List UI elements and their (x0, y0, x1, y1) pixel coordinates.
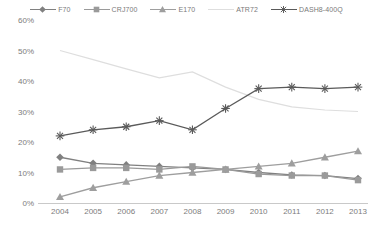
y-axis-tick-label: 60% (18, 16, 34, 25)
data-point-marker (287, 83, 296, 92)
y-axis-tick-label: 30% (18, 107, 34, 116)
series-line (60, 87, 358, 136)
legend-item-atr72[interactable]: ATR72 (208, 5, 258, 14)
data-point-marker (122, 122, 131, 131)
data-point-marker (321, 84, 330, 93)
x-axis-labels: 2004200520062007200820092010201120122013 (38, 205, 368, 221)
series-line (60, 51, 358, 112)
x-axis-tick-label: 2006 (117, 207, 135, 216)
data-point-marker (123, 165, 129, 171)
y-axis-tick-label: 10% (18, 168, 34, 177)
x-axis-tick-label: 2009 (217, 207, 235, 216)
data-point-marker (255, 171, 261, 177)
legend-item-crj700[interactable]: CRJ700 (84, 5, 138, 14)
line-chart: F70CRJ700E170ATR72DASH8-400Q 0%10%20%30%… (0, 0, 373, 227)
x-axis-tick-label: 2013 (349, 207, 367, 216)
data-point-marker (39, 6, 46, 13)
data-point-marker (89, 126, 98, 135)
legend-swatch (30, 5, 56, 14)
data-point-marker (280, 6, 287, 13)
legend-marker-icon (39, 6, 46, 13)
legend-swatch (84, 5, 110, 14)
x-axis-tick-label: 2008 (184, 207, 202, 216)
legend-swatch (150, 5, 176, 14)
legend-marker-icon (93, 6, 100, 13)
data-point-marker (254, 84, 263, 93)
x-axis-tick-label: 2011 (283, 207, 300, 216)
x-axis-line (38, 203, 368, 204)
legend-label: ATR72 (236, 6, 258, 13)
legend-item-dash8-400q[interactable]: DASH8-400Q (271, 5, 343, 14)
legend-item-e170[interactable]: E170 (150, 5, 195, 14)
chart-legend: F70CRJ700E170ATR72DASH8-400Q (0, 2, 373, 16)
x-axis-tick-label: 2010 (250, 207, 268, 216)
legend-swatch (208, 5, 234, 14)
legend-label: E170 (178, 6, 195, 13)
series-line (60, 166, 358, 180)
legend-label: CRJ700 (112, 6, 138, 13)
series-line (60, 151, 358, 197)
legend-swatch (271, 5, 297, 14)
legend-item-f70[interactable]: F70 (30, 5, 70, 14)
plot-area (38, 20, 368, 203)
series-dash8-400q (56, 83, 363, 140)
legend-label: F70 (58, 6, 70, 13)
data-point-marker (289, 172, 295, 178)
data-point-marker (354, 147, 362, 154)
x-axis-tick-label: 2005 (84, 207, 102, 216)
data-point-marker (155, 116, 164, 125)
data-point-marker (93, 6, 99, 12)
y-axis-tick-label: 50% (18, 46, 34, 55)
data-point-marker (221, 104, 230, 113)
data-point-marker (57, 166, 63, 172)
x-axis-tick-label: 2007 (150, 207, 168, 216)
series-atr72 (60, 51, 358, 112)
series-e170 (56, 147, 362, 200)
data-point-marker (354, 83, 363, 92)
y-axis-tick-label: 0% (22, 199, 34, 208)
data-point-marker (355, 177, 361, 183)
data-point-marker (322, 172, 328, 178)
series-crj700 (57, 163, 361, 183)
y-axis-labels: 0%10%20%30%40%50%60% (0, 20, 34, 203)
y-axis-tick-label: 40% (18, 77, 34, 86)
x-axis-tick-label: 2004 (51, 207, 69, 216)
data-point-marker (56, 153, 64, 161)
x-axis-tick-label: 2012 (316, 207, 334, 216)
data-point-marker (56, 132, 65, 141)
y-axis-tick-label: 20% (18, 138, 34, 147)
legend-marker-icon (159, 6, 166, 13)
legend-marker-icon (280, 6, 287, 13)
data-point-marker (90, 165, 96, 171)
legend-label: DASH8-400Q (299, 6, 343, 13)
data-point-marker (159, 6, 166, 12)
data-point-marker (188, 126, 197, 135)
